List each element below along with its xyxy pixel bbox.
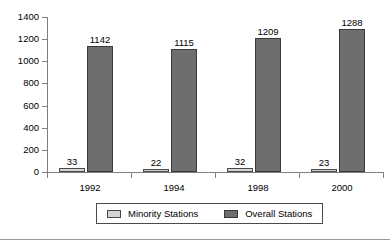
- y-axis-tick-mark: [42, 106, 47, 107]
- bottom-divider: [0, 239, 390, 240]
- y-axis-tick-label: 1400: [0, 12, 39, 22]
- x-axis-category-1992: 1992: [48, 182, 132, 193]
- bars-layer: 331142221115321209231288: [48, 17, 384, 172]
- legend-swatch-icon-minority: [107, 210, 121, 218]
- bar-value-label: 1209: [248, 26, 288, 37]
- x-axis-tick-mark: [299, 173, 300, 178]
- bar-overall-1994: [171, 49, 197, 172]
- y-axis-tick-label: 1200: [0, 34, 39, 44]
- y-axis-tick-mark: [42, 150, 47, 151]
- chart-legend: Minority StationsOverall Stations: [96, 203, 323, 224]
- bar-value-label: 1288: [332, 17, 372, 28]
- y-axis-tick-value: 400: [3, 123, 39, 133]
- y-axis-tick-mark: [42, 83, 47, 84]
- legend-label: Minority Stations: [128, 208, 198, 219]
- y-axis-tick-value: 0: [3, 167, 39, 177]
- y-axis-tick-value: 600: [3, 101, 39, 111]
- y-axis-tick-value: 1000: [3, 56, 39, 66]
- bar-chart-figure: 0200400600800100012001400 33114222111532…: [0, 0, 390, 248]
- x-axis-tick-mark: [383, 173, 384, 178]
- y-axis-tick-label: 400: [0, 123, 39, 133]
- x-axis-category-1998: 1998: [216, 182, 300, 193]
- y-axis-tick-label: 1000: [0, 56, 39, 66]
- bar-minority-2000: [311, 169, 337, 172]
- bar-value-label: 32: [220, 156, 260, 167]
- x-axis-tick-mark: [47, 173, 48, 178]
- y-axis-tick-mark: [42, 61, 47, 62]
- bar-value-label: 1142: [80, 34, 120, 45]
- bar-value-label: 1115: [164, 37, 204, 48]
- bar-minority-1998: [227, 168, 253, 172]
- bar-minority-1992: [59, 168, 85, 172]
- y-axis-tick-mark: [42, 17, 47, 18]
- y-axis-tick-value: 1400: [3, 12, 39, 22]
- bar-overall-1998: [255, 38, 281, 172]
- bar-overall-2000: [339, 29, 365, 172]
- y-axis-tick-value: 800: [3, 78, 39, 88]
- legend-item-minority: Minority Stations: [107, 208, 198, 219]
- y-axis-tick-value: 200: [3, 145, 39, 155]
- bar-value-label: 22: [136, 157, 176, 168]
- y-axis-tick-label: 0: [0, 167, 39, 177]
- legend-swatch-icon-overall: [224, 210, 238, 218]
- legend-label: Overall Stations: [245, 208, 312, 219]
- x-axis-tick-mark: [131, 173, 132, 178]
- legend-item-overall: Overall Stations: [224, 208, 312, 219]
- x-axis-tick-mark: [215, 173, 216, 178]
- y-axis-tick-value: 1200: [3, 34, 39, 44]
- x-axis-category-2000: 2000: [300, 182, 384, 193]
- bar-minority-1994: [143, 169, 169, 172]
- y-axis-tick-label: 200: [0, 145, 39, 155]
- y-axis-tick-label: 600: [0, 101, 39, 111]
- y-axis-tick-label: 800: [0, 78, 39, 88]
- y-axis-tick-mark: [42, 39, 47, 40]
- bar-value-label: 33: [52, 156, 92, 167]
- bar-overall-1992: [87, 46, 113, 172]
- y-axis-tick-mark: [42, 128, 47, 129]
- x-axis-category-1994: 1994: [132, 182, 216, 193]
- bar-value-label: 23: [304, 157, 344, 168]
